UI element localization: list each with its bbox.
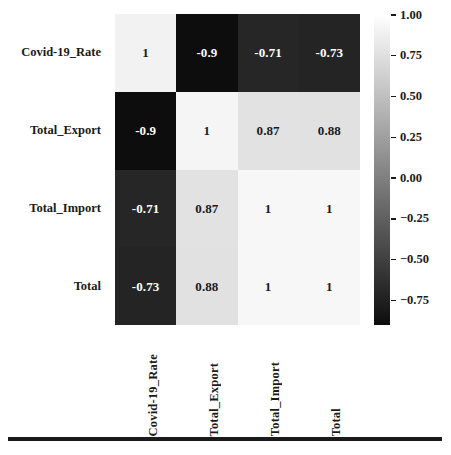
- heatmap-cell-value: 0.87: [257, 124, 280, 137]
- colorbar: 1.000.750.500.250.00−0.25−0.50−0.75: [374, 15, 390, 325]
- heatmap-cell-value: -0.71: [254, 46, 282, 59]
- row-label-total-export: Total_Export: [0, 92, 108, 170]
- heatmap-cell: 1: [299, 247, 360, 325]
- colorbar-tick-mark: [391, 218, 396, 219]
- col-label-total: Total: [299, 328, 360, 436]
- colorbar-tick-label: 0.25: [400, 130, 422, 145]
- y-axis-tick-labels: Covid-19_Rate Total_Export Total_Import …: [0, 14, 108, 325]
- colorbar-tick-label: 0.50: [400, 89, 422, 104]
- heatmap-cell: 0.88: [176, 247, 237, 325]
- colorbar-tick-mark: [391, 300, 396, 301]
- colorbar-tick-label: −0.75: [400, 293, 429, 308]
- heatmap-cell-value: -0.73: [316, 46, 344, 59]
- heatmap-cell: -0.71: [238, 14, 299, 92]
- colorbar-tick-labels: 1.000.750.500.250.00−0.25−0.50−0.75: [390, 15, 451, 325]
- heatmap-cell-value: 0.88: [318, 124, 341, 137]
- col-label-text: Total_Import: [268, 362, 283, 436]
- colorbar-tick-label: −0.25: [400, 211, 429, 226]
- heatmap-cell-value: 0.87: [195, 202, 218, 215]
- heatmap-cell-value: 1: [204, 124, 211, 137]
- heatmap-cell: 1: [299, 170, 360, 248]
- colorbar-tick-mark: [391, 14, 396, 15]
- colorbar-tick-mark: [391, 96, 396, 97]
- heatmap-cell-value: 1: [326, 202, 333, 215]
- colorbar-tick-mark: [391, 177, 396, 178]
- col-label-total-export: Total_Export: [176, 328, 237, 436]
- row-label-text: Total: [74, 279, 101, 294]
- heatmap-cell: 0.88: [299, 92, 360, 170]
- row-label-total-import: Total_Import: [0, 170, 108, 248]
- heatmap-cell-value: 1: [265, 280, 272, 293]
- col-label-covid-19-rate: Covid-19_Rate: [115, 328, 176, 436]
- col-label-total-import: Total_Import: [238, 328, 299, 436]
- heatmap-cell-value: -0.71: [132, 202, 160, 215]
- row-label-covid-19-rate: Covid-19_Rate: [0, 14, 108, 92]
- colorbar-tick-mark: [391, 259, 396, 260]
- heatmap-cell: -0.73: [299, 14, 360, 92]
- colorbar-tick-label: 0.75: [400, 48, 422, 63]
- heatmap-cell: 0.87: [238, 92, 299, 170]
- heatmap-cell-value: -0.9: [135, 124, 156, 137]
- heatmap-cell-value: 1: [326, 280, 333, 293]
- correlation-heatmap-figure: Covid-19_Rate Total_Export Total_Import …: [0, 0, 451, 455]
- row-label-text: Covid-19_Rate: [21, 45, 101, 60]
- row-label-total: Total: [0, 247, 108, 325]
- heatmap-cell: 1: [115, 14, 176, 92]
- heatmap-cell-value: -0.9: [196, 46, 217, 59]
- heatmap-cell-value: 1: [265, 202, 272, 215]
- heatmap-grid: 1 -0.9 -0.71 -0.73 -0.9 1 0.87 0.88 -0.7…: [115, 14, 360, 325]
- heatmap-cell: 1: [238, 247, 299, 325]
- heatmap-cell-value: -0.73: [132, 280, 160, 293]
- row-label-text: Total_Import: [29, 201, 101, 216]
- colorbar-tick-mark: [391, 137, 396, 138]
- bottom-horizontal-rule: [8, 437, 442, 441]
- colorbar-tick-label: 0.00: [400, 171, 422, 186]
- row-label-text: Total_Export: [30, 123, 101, 138]
- heatmap-cell: 0.87: [176, 170, 237, 248]
- heatmap-cell: -0.9: [115, 92, 176, 170]
- colorbar-tick-label: 1.00: [400, 8, 422, 23]
- col-label-text: Total_Export: [207, 363, 222, 436]
- colorbar-gradient: [374, 15, 390, 325]
- colorbar-tick-label: −0.50: [400, 252, 429, 267]
- col-label-text: Total: [329, 408, 344, 436]
- colorbar-tick-mark: [391, 55, 396, 56]
- x-axis-tick-labels: Covid-19_Rate Total_Export Total_Import …: [115, 328, 360, 436]
- heatmap-cell: 1: [176, 92, 237, 170]
- col-label-text: Covid-19_Rate: [146, 354, 161, 436]
- heatmap-cell-value: 0.88: [195, 280, 218, 293]
- heatmap-cell: -0.9: [176, 14, 237, 92]
- heatmap-cell: -0.71: [115, 170, 176, 248]
- heatmap-cell: 1: [238, 170, 299, 248]
- heatmap-cell-value: 1: [142, 46, 149, 59]
- heatmap-cell: -0.73: [115, 247, 176, 325]
